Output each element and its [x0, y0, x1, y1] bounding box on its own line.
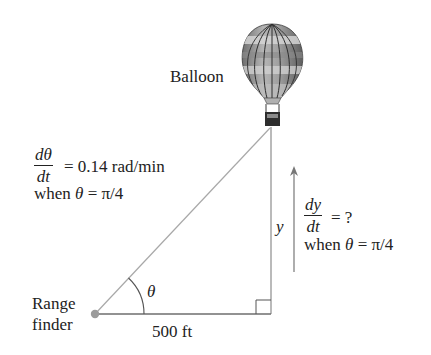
dtheta-condition: when θ = π/4 [34, 185, 123, 202]
related-rates-diagram: Balloon dθ dt = 0.14 rad/min when θ = π/… [0, 0, 431, 355]
angle-arc [129, 278, 145, 314]
range-finder-label-1: Range [32, 295, 75, 312]
dtheta-theta: θ [75, 184, 83, 203]
dtheta-when: when [34, 184, 71, 203]
range-finder-label-2: finder [32, 316, 73, 333]
right-angle-marker [256, 300, 271, 314]
dtheta-dt-fraction: dθ dt [34, 146, 53, 185]
dy-dt-fraction: dy dt [304, 196, 322, 235]
dtheta-numerator: dθ [34, 146, 53, 166]
balloon-icon [240, 24, 306, 126]
dy-numerator: dy [304, 196, 322, 216]
dy-theta: θ [345, 235, 353, 254]
dtheta-angle-value: = π/4 [88, 184, 124, 203]
dy-when: when [304, 235, 341, 254]
dy-angle-value: = π/4 [358, 235, 394, 254]
balloon-label: Balloon [170, 68, 224, 85]
height-label: y [276, 218, 284, 235]
dy-value: = ? [331, 209, 352, 226]
dy-condition: when θ = π/4 [304, 236, 393, 253]
dtheta-value: = 0.14 rad/min [64, 158, 165, 175]
angle-label: θ [147, 283, 155, 300]
dtheta-denominator: dt [34, 166, 53, 185]
range-finder-dot [91, 310, 99, 318]
dy-denominator: dt [304, 216, 322, 235]
line-of-sight [95, 128, 270, 314]
base-distance-label: 500 ft [152, 323, 192, 340]
